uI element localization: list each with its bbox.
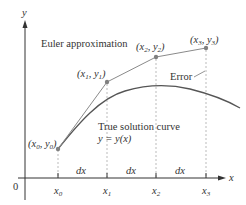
euler-points [56,46,208,151]
svg-text:dx: dx [126,165,136,176]
true-curve-label: True solution curve [98,121,180,132]
x-axis: x 0 [13,172,234,192]
euler-approximation-line [58,48,206,149]
point-p2 [154,55,158,59]
origin-label: 0 [13,181,18,192]
svg-text:(x3, y3): (x3, y3) [190,34,219,47]
svg-text:dx: dx [175,165,185,176]
true-curve-equation: y = y(x) [97,133,132,145]
svg-text:x1: x1 [102,185,111,198]
x-tick-labels: x0 x1 x2 x3 [53,185,211,198]
point-p1 [105,80,109,84]
euler-label: Euler approximation [41,38,128,49]
y-axis: y [21,7,28,200]
true-solution-curve [58,85,240,149]
y-axis-label: y [21,7,27,18]
point-p3 [204,46,208,50]
svg-text:(x2, y2): (x2, y2) [136,41,165,54]
x-axis-label: x [228,172,234,183]
error-label: Error [170,71,193,82]
svg-text:(x0, y0): (x0, y0) [28,138,57,151]
svg-text:x3: x3 [201,185,211,198]
svg-text:x0: x0 [53,185,63,198]
svg-text:x2: x2 [151,185,161,198]
svg-text:dx: dx [76,165,86,176]
svg-text:(x1, y1): (x1, y1) [77,68,106,81]
euler-method-diagram: y x 0 x0 x1 x2 x3 dx dx dx [0,0,246,205]
error-pointer [194,71,205,77]
step-labels: dx dx dx [76,165,185,176]
